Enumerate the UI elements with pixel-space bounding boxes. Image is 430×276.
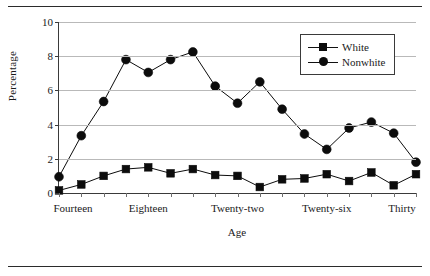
y-tick-label: 8 xyxy=(48,50,54,62)
data-point-white[interactable] xyxy=(256,183,264,191)
y-axis-title: Percentage xyxy=(4,33,20,119)
x-tick-mark xyxy=(148,193,149,197)
data-point-white[interactable] xyxy=(234,172,242,180)
top-divider-rule xyxy=(8,6,422,7)
bottom-divider-rule xyxy=(8,266,422,267)
legend-label-nonwhite: Nonwhite xyxy=(338,56,385,68)
data-point-white[interactable] xyxy=(144,164,152,172)
data-point-white[interactable] xyxy=(100,172,108,180)
x-tick-mark xyxy=(193,193,194,197)
x-tick-label: Twenty-six xyxy=(302,202,351,214)
legend-item-white[interactable]: White xyxy=(308,39,385,54)
x-tick-mark xyxy=(260,193,261,197)
data-point-white[interactable] xyxy=(390,182,398,190)
data-point-white[interactable] xyxy=(412,170,420,178)
x-tick-label: Eighteen xyxy=(129,202,168,214)
x-tick-mark xyxy=(327,193,328,197)
y-tick-mark xyxy=(55,159,59,160)
y-tick-label: 2 xyxy=(48,153,54,165)
data-point-nonwhite[interactable] xyxy=(255,77,264,86)
y-gridline xyxy=(59,90,416,91)
data-point-white[interactable] xyxy=(122,165,130,173)
data-point-nonwhite[interactable] xyxy=(278,105,287,114)
y-gridline xyxy=(59,159,416,160)
y-tick-mark xyxy=(55,90,59,91)
x-tick-mark xyxy=(126,193,127,197)
x-tick-label: Twenty-two xyxy=(211,202,264,214)
x-tick-mark xyxy=(238,193,239,197)
data-point-nonwhite[interactable] xyxy=(144,68,153,77)
x-tick-mark xyxy=(104,193,105,197)
y-gridline xyxy=(59,125,416,126)
data-point-white[interactable] xyxy=(189,165,197,173)
x-tick-mark xyxy=(371,193,372,197)
x-axis-title: Age xyxy=(58,226,416,238)
data-point-white[interactable] xyxy=(368,169,376,177)
y-tick-mark xyxy=(55,22,59,23)
data-point-nonwhite[interactable] xyxy=(211,82,220,91)
x-tick-mark xyxy=(304,193,305,197)
legend-square-marker-icon xyxy=(308,40,338,54)
x-tick-mark xyxy=(215,193,216,197)
data-point-nonwhite[interactable] xyxy=(233,99,242,108)
figure-page: Percentage 0246810FourteenEighteenTwenty… xyxy=(0,0,430,276)
data-point-nonwhite[interactable] xyxy=(300,130,309,139)
data-point-white[interactable] xyxy=(345,177,353,185)
legend-label-white: White xyxy=(338,41,369,53)
x-tick-mark xyxy=(394,193,395,197)
legend-circle-marker-icon xyxy=(308,55,338,69)
chart-legend: White Nonwhite xyxy=(300,34,395,75)
y-tick-label: 6 xyxy=(48,84,54,96)
data-point-nonwhite[interactable] xyxy=(389,129,398,138)
y-tick-label: 10 xyxy=(42,16,53,28)
x-tick-mark xyxy=(282,193,283,197)
x-tick-mark xyxy=(416,193,417,197)
data-point-nonwhite[interactable] xyxy=(322,145,331,154)
data-point-white[interactable] xyxy=(78,181,86,189)
x-tick-mark xyxy=(81,193,82,197)
legend-item-nonwhite[interactable]: Nonwhite xyxy=(308,54,385,69)
data-point-white[interactable] xyxy=(301,175,309,183)
data-point-white[interactable] xyxy=(278,176,286,184)
line-chart: Percentage 0246810FourteenEighteenTwenty… xyxy=(0,12,430,252)
data-point-nonwhite[interactable] xyxy=(188,48,197,57)
x-tick-mark xyxy=(59,193,60,197)
data-point-nonwhite[interactable] xyxy=(99,97,108,106)
y-tick-mark xyxy=(55,125,59,126)
data-point-nonwhite[interactable] xyxy=(55,172,64,181)
data-point-nonwhite[interactable] xyxy=(77,131,86,140)
x-tick-label: Thirty xyxy=(388,202,416,214)
x-tick-mark xyxy=(171,193,172,197)
data-point-white[interactable] xyxy=(323,170,331,178)
x-tick-label: Fourteen xyxy=(53,202,92,214)
y-gridline xyxy=(59,22,416,23)
y-tick-label: 4 xyxy=(48,119,54,131)
y-tick-mark xyxy=(55,56,59,57)
y-tick-label: 0 xyxy=(48,187,54,199)
data-point-white[interactable] xyxy=(167,170,175,178)
x-tick-mark xyxy=(349,193,350,197)
data-point-white[interactable] xyxy=(211,171,219,179)
